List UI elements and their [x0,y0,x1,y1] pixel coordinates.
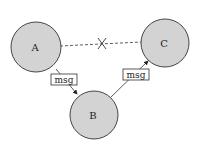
node-a: A [11,22,61,72]
node-c-label: C [160,38,168,49]
node-b: B [70,91,118,139]
x-mark-icon [98,38,106,49]
svg-text:msg: msg [55,75,74,85]
node-c: C [141,19,189,67]
msg-label-b-c: msg [123,69,149,80]
node-a-label: A [30,42,39,53]
diagram: A B C msg msg [0,0,198,146]
node-b-label: B [89,110,96,121]
msg-label-a-b: msg [51,74,77,85]
svg-text:msg: msg [127,70,146,80]
